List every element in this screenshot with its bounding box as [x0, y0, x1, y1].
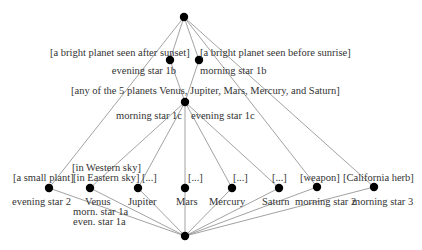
label-evening-star-1b: evening star 1b [95, 65, 176, 76]
label-mercury: Mercury [209, 196, 245, 207]
node-venus [86, 184, 94, 192]
label-jupiter: Jupiter [128, 196, 157, 207]
label-california-herb: [California herb] [343, 172, 414, 183]
node-mercury [228, 184, 236, 192]
node-bottom [181, 232, 189, 240]
node-morning-star-3 [370, 183, 378, 191]
edge-morning-star-3-to-bottom [185, 187, 374, 236]
label-mars: Mars [176, 196, 198, 207]
label-mercury-gloss: [...] [233, 172, 248, 183]
label-any-of-5-planets: [any of the 5 planets Venus, Jupiter, Ma… [71, 85, 340, 96]
label-bright-after-sunset: [a bright planet seen after sunset] [50, 47, 190, 58]
node-mars [181, 184, 189, 192]
label-jupiter-gloss: [...] [142, 172, 157, 183]
node-jupiter [134, 184, 142, 192]
label-morning-star-1c: morning star 1c [100, 110, 182, 121]
node-middle [181, 98, 189, 106]
label-morning-star-1b: morning star 1b [200, 65, 267, 76]
label-evening-star-1c: evening star 1c [191, 110, 255, 121]
label-small-plant: [a small plant] [13, 172, 74, 183]
node-top [180, 13, 188, 21]
lattice-diagram [0, 0, 422, 250]
label-morning-star-2: morning star 2 [295, 196, 356, 207]
edge-top-to-morning-star-3 [184, 17, 374, 187]
node-saturn [275, 184, 283, 192]
label-in-eastern-sky: [in Eastern sky] [73, 172, 139, 183]
label-mars-gloss: [...] [188, 172, 203, 183]
label-bright-before-sunrise: [a bright planet seen before sunrise] [200, 47, 351, 58]
node-evening-star-2 [45, 184, 53, 192]
label-even-star-1a: even. star 1a [73, 216, 126, 227]
label-saturn: Saturn [262, 196, 289, 207]
label-morning-star-3: morning star 3 [352, 196, 413, 207]
label-evening-star-2: evening star 2 [12, 196, 71, 207]
label-weapon: [weapon] [300, 172, 340, 183]
edge-morning-star-2-to-bottom [185, 187, 317, 236]
label-saturn-gloss: [...] [272, 172, 287, 183]
node-morning-star-2 [313, 183, 321, 191]
